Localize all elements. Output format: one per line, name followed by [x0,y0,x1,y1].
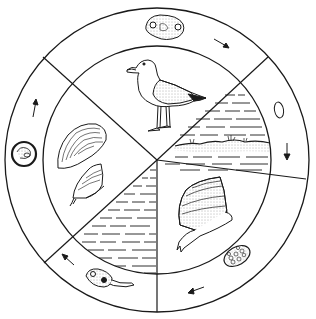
adult-worm-icon [146,15,184,40]
cercaria-icon [86,269,134,287]
sporocyst-icon [220,241,253,271]
arrow-up-icon [33,99,38,117]
life-cycle-diagram [0,0,316,319]
gull-icon [127,60,206,131]
mussel-icon [58,124,107,169]
arrow-right-down-icon [214,39,229,48]
periwinkle-icon [70,164,104,206]
arrow-left-icon [188,287,204,294]
snail-icon [177,177,232,252]
cyst-icon [12,142,36,166]
arrow-down-icon [284,143,290,160]
egg-icon [273,101,285,118]
arrow-up-left-icon [62,254,74,265]
